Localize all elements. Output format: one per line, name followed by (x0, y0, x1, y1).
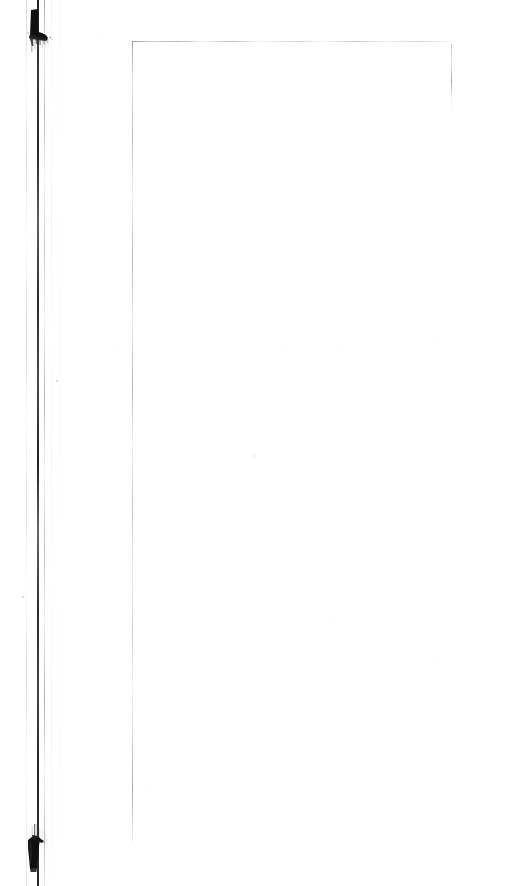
scan-speck (282, 347, 283, 348)
scan-speck (98, 33, 99, 34)
ink-blot-top-icon (22, 6, 56, 52)
gutter-streak-inner (44, 0, 45, 886)
gutter-streak-hairline (60, 0, 61, 886)
frame-rule-right (451, 44, 452, 112)
scan-speck (437, 343, 438, 344)
scan-speck (340, 345, 341, 346)
ink-blot-bottom-icon (20, 824, 52, 874)
gutter-streak-far (51, 0, 52, 886)
gutter-streak-outer (26, 0, 27, 886)
scan-speck (253, 455, 255, 457)
scan-speck (330, 618, 331, 619)
binding-streak (37, 0, 39, 886)
frame-rule-top (133, 41, 450, 42)
scan-speck (433, 660, 434, 661)
scan-speck (119, 345, 120, 346)
scan-speck (62, 812, 63, 813)
scan-speck (22, 596, 24, 598)
scan-speck (56, 380, 58, 382)
scan-speck (150, 785, 151, 786)
frame-rule-left (132, 41, 133, 846)
scanned-page: Scanned Document Page (0, 0, 509, 886)
